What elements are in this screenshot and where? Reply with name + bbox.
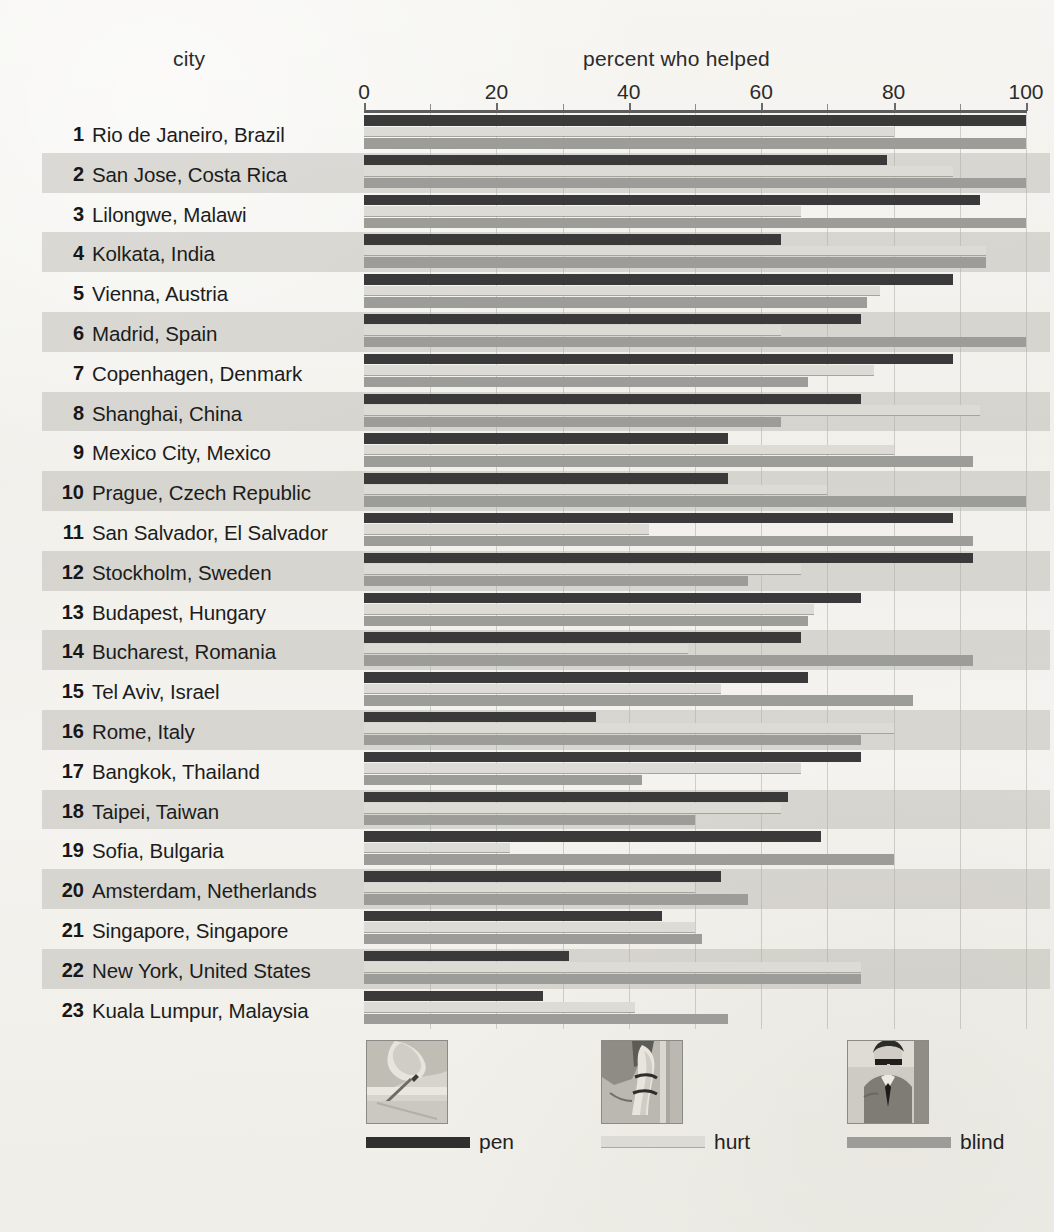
bar-pen [364,314,861,325]
row-bar-group [364,950,1026,988]
legend-label: hurt [714,1130,750,1154]
row-rank-number: 3 [44,203,84,226]
chart-row: 3Lilongwe, Malawi [0,193,1054,233]
bar-hurt [364,524,649,535]
bar-hurt [364,803,781,814]
bar-blind [364,138,1026,149]
bar-blind [364,655,973,666]
bar-hurt [364,564,801,575]
row-rank-number: 17 [44,760,84,783]
row-city-label: Madrid, Spain [92,322,217,346]
blind-swatch [847,1137,951,1148]
helping-behavior-bar-chart: city percent who helped 020406080100 1Ri… [0,0,1054,1232]
x-tickmark-minor [695,104,696,110]
bar-hurt [364,644,688,655]
chart-row: 19Sofia, Bulgaria [0,829,1054,869]
bar-pen [364,473,728,484]
row-bar-group [364,353,1026,391]
bar-pen [364,553,973,564]
row-bar-group [364,671,1026,709]
row-city-label: Bangkok, Thailand [92,760,260,784]
bar-blind [364,894,748,905]
row-bar-group [364,592,1026,630]
x-tickmark-minor [827,104,828,110]
bar-hurt [364,843,510,854]
row-bar-group [364,154,1026,192]
row-city-label: Bucharest, Romania [92,640,276,664]
row-city-label: Taipei, Taiwan [92,800,219,824]
bar-pen [364,433,728,444]
row-rank-number: 4 [44,242,84,265]
row-city-label: Singapore, Singapore [92,919,288,943]
row-bar-group [364,233,1026,271]
legend-item: blind [847,1130,1004,1154]
x-tickmark-minor [430,104,431,110]
x-tickmark-major [761,103,763,111]
row-bar-group [364,830,1026,868]
bar-hurt [364,604,814,615]
chart-row: 5Vienna, Austria [0,272,1054,312]
bar-hurt [364,684,721,695]
row-city-label: Copenhagen, Denmark [92,362,302,386]
row-rank-number: 8 [44,402,84,425]
bar-pen [364,632,801,643]
row-city-label: Rio de Janeiro, Brazil [92,123,285,147]
bar-blind [364,417,781,428]
bar-pen [364,672,808,683]
x-tick-label: 0 [358,80,370,104]
x-tickmark-minor [960,104,961,110]
row-bar-group [364,393,1026,431]
bar-hurt [364,405,980,416]
row-bar-group [364,552,1026,590]
legend-group: pen [366,1040,514,1154]
hurt-leg-photo [601,1040,683,1124]
chart-row: 13Budapest, Hungary [0,591,1054,631]
row-city-label: Shanghai, China [92,402,242,426]
bar-hurt [364,166,953,177]
row-bar-group [364,910,1026,948]
row-city-label: Vienna, Austria [92,282,228,306]
bar-hurt [364,127,894,138]
chart-row: 18Taipei, Taiwan [0,790,1054,830]
row-city-label: San Jose, Costa Rica [92,163,287,187]
row-rank-number: 16 [44,720,84,743]
bar-blind [364,854,894,865]
chart-row: 6Madrid, Spain [0,312,1054,352]
row-bar-group [364,313,1026,351]
legend-label: blind [960,1130,1004,1154]
row-rank-number: 5 [44,282,84,305]
row-bar-group [364,273,1026,311]
hurt-swatch [601,1136,705,1148]
row-city-label: Stockholm, Sweden [92,561,271,585]
legend-group: blind [847,1040,1004,1154]
legend-item: hurt [601,1130,750,1154]
chart-row: 23Kuala Lumpur, Malaysia [0,989,1054,1029]
chart-row: 16Rome, Italy [0,710,1054,750]
bar-blind [364,377,808,388]
bar-blind [364,257,986,268]
row-city-label: Amsterdam, Netherlands [92,879,317,903]
bar-pen [364,195,980,206]
row-rank-number: 12 [44,561,84,584]
pen-swatch [366,1137,470,1148]
x-tick-label: 60 [750,80,773,104]
chart-rows: 1Rio de Janeiro, Brazil2San Jose, Costa … [0,113,1054,1028]
row-city-label: New York, United States [92,959,311,983]
row-city-label: Tel Aviv, Israel [92,680,220,704]
row-rank-number: 7 [44,362,84,385]
chart-row: 7Copenhagen, Denmark [0,352,1054,392]
bar-pen [364,752,861,763]
row-rank-number: 18 [44,800,84,823]
bar-pen [364,394,861,405]
row-rank-number: 14 [44,640,84,663]
bar-blind [364,934,702,945]
bar-blind [364,775,642,786]
row-city-label: Prague, Czech Republic [92,481,311,505]
x-tickmark-major [629,103,631,111]
row-bar-group [364,432,1026,470]
bar-pen [364,274,953,285]
bar-blind [364,337,1026,348]
x-tick-label: 20 [485,80,508,104]
bar-pen [364,354,953,365]
chart-legend: pen hurt blind [0,1040,1054,1232]
